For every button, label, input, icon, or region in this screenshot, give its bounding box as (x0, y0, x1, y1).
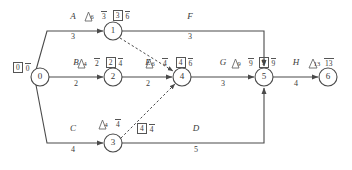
annotation-node-0-bar: 0 (25, 63, 31, 73)
annotation-node-2-bar: 2 (94, 58, 100, 68)
annotation-node-4-triangle-value: 6 (146, 59, 160, 68)
node-label-6: 6 (320, 72, 336, 81)
activity-duration-B: 2 (66, 80, 86, 88)
activity-duration-C: 4 (63, 146, 83, 154)
annotation-node-3-triangle-value: 4 (99, 120, 113, 129)
annotation-node-4-bar2: 6 (188, 58, 194, 68)
annotation-node-5-bar2: 9 (271, 58, 277, 68)
annotation-node-3-bar2: 4 (149, 124, 155, 134)
activity-label-G: G (213, 58, 233, 67)
annotation-node-1-triangle: 6 (85, 10, 99, 21)
activity-label-H: H (286, 58, 306, 67)
annotation-node-4-boxed: 4 (176, 57, 186, 68)
annotation-node-3-boxed: 4 (137, 123, 147, 134)
annotation-node-4-bar: 4 (162, 58, 168, 68)
annotation-node-6-bar: 13 (324, 58, 334, 68)
annotation-node-3-box: 4 4 (137, 123, 155, 135)
activity-label-D: D (186, 124, 206, 133)
activity-duration-H: 4 (286, 80, 306, 88)
annotation-node-5-bar: 9 (248, 58, 254, 68)
node-label-0: 0 (32, 72, 48, 81)
node-label-2: 2 (105, 72, 121, 81)
activity-duration-F: 3 (180, 33, 200, 41)
annotation-node-4: 6 4 4 6 (146, 57, 193, 69)
annotation-node-2-bar2: 4 (118, 58, 124, 68)
edge-C (36, 85, 103, 143)
annotation-node-1-bar: 3 (101, 11, 107, 21)
annotation-node-6: 13 13 (309, 57, 334, 69)
annotation-node-5-boxed: 9 (259, 57, 269, 68)
annotation-node-5: 9 9 9 9 (232, 57, 276, 69)
activity-duration-G: 3 (213, 80, 233, 88)
annotation-node-4-triangle: 6 (146, 57, 160, 68)
annotation-node-5-triangle: 9 (232, 57, 246, 68)
node-label-4: 4 (174, 72, 190, 81)
annotation-node-0-boxed: 0 (13, 62, 23, 73)
annotation-node-0: 0 0 (13, 62, 31, 74)
activity-label-C: C (63, 124, 83, 133)
node-label-3: 3 (105, 138, 121, 147)
annotation-node-1: 6 3 3 6 (85, 10, 130, 22)
activity-label-F: F (180, 12, 200, 21)
annotation-node-1-bar2: 6 (125, 11, 131, 21)
annotation-node-2-triangle-value: 4 (78, 59, 92, 68)
activity-duration-E: 2 (138, 80, 158, 88)
activity-label-A: A (63, 12, 83, 21)
activity-duration-D: 5 (186, 146, 206, 154)
annotation-node-2-boxed: 2 (106, 57, 116, 68)
annotation-node-3-bar: 4 (115, 119, 121, 129)
annotation-node-2: 4 2 2 4 (78, 57, 123, 69)
annotation-node-3: 4 4 (99, 118, 121, 130)
network-diagram: 0 1 2 3 4 5 6 A 3 B 2 C 4 F 3 E 2 D 5 G … (0, 0, 352, 170)
annotation-node-5-triangle-value: 9 (232, 59, 246, 68)
annotation-node-3-triangle: 4 (99, 118, 113, 129)
annotation-node-1-boxed: 3 (113, 10, 123, 21)
annotation-node-6-triangle: 13 (309, 57, 325, 68)
node-label-1: 1 (105, 26, 121, 35)
node-label-5: 5 (256, 72, 272, 81)
annotation-node-6-triangle-value: 13 (309, 59, 325, 68)
annotation-node-2-triangle: 4 (78, 57, 92, 68)
annotation-node-1-triangle-value: 6 (85, 12, 99, 21)
activity-duration-A: 3 (63, 33, 83, 41)
